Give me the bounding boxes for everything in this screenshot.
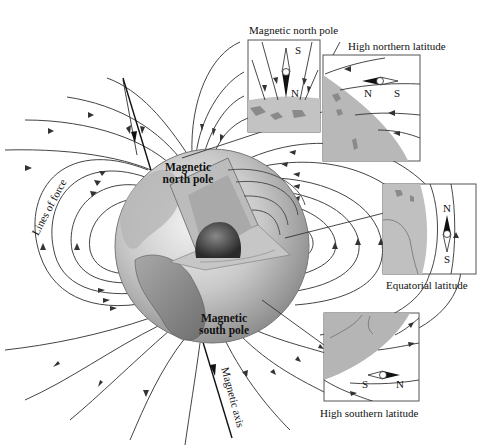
compass-n-label: N (291, 87, 299, 99)
compass-s-label: S (295, 44, 301, 56)
inset-high-northern-latitude: N S (323, 55, 420, 165)
label-globe-magnetic-north-pole: Magnetic north pole (150, 161, 226, 185)
compass-n-label: N (364, 87, 372, 99)
label-line: Magnetic (150, 161, 226, 173)
compass-n-label: N (396, 378, 404, 390)
inset-magnetic-north-pole: S N (240, 40, 330, 140)
inset-equatorial-latitude: N S (383, 184, 476, 274)
label-globe-magnetic-south-pole: Magnetic south pole (186, 312, 262, 336)
label-high-southern-latitude: High southern latitude (320, 408, 418, 419)
compass-s-label: S (444, 253, 450, 265)
label-high-northern-latitude: High northern latitude (348, 41, 446, 52)
compass-s-label: S (362, 378, 368, 390)
label-line: Magnetic (186, 312, 262, 324)
inset-high-southern-latitude: S N (324, 313, 419, 402)
magnetic-field-diagram: S N N S (0, 0, 496, 448)
label-equatorial-latitude: Equatorial latitude (386, 280, 468, 291)
label-line: south pole (186, 324, 262, 336)
label-line: north pole (150, 173, 226, 185)
compass-n-label: N (443, 202, 451, 214)
compass-s-label: S (394, 87, 400, 99)
label-magnetic-north-pole-inset: Magnetic north pole (249, 25, 338, 36)
